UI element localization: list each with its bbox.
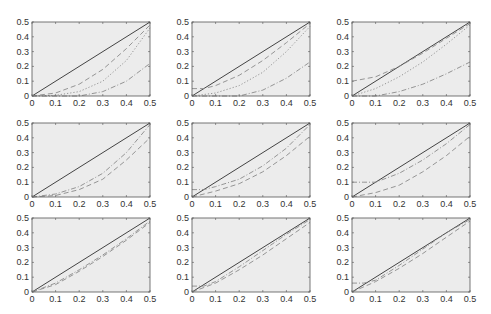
y-tick-label: 0.4 [176,32,189,42]
x-tick-label: 0.4 [280,294,293,304]
y-tick-label: 0 [344,287,349,297]
y-tick-label: 0.2 [16,257,29,267]
y-tick-label: 0.5 [176,118,189,128]
subplot-5: 00.10.20.30.40.500.10.20.30.40.5 [176,118,316,209]
y-tick-label: 0.4 [176,133,189,143]
y-tick-label: 0.1 [176,272,189,282]
x-tick-label: 0.2 [73,199,86,209]
x-tick-label: 0.1 [369,98,382,108]
y-tick-label: 0.4 [176,228,189,238]
x-tick-label: 0.3 [97,199,110,209]
x-tick-label: 0.1 [209,294,222,304]
x-tick-label: 0.3 [97,98,110,108]
subplot-9: 00.10.20.30.40.500.10.20.30.40.5 [336,213,476,304]
y-tick-label: 0 [184,91,189,101]
x-tick-label: 0.5 [144,98,157,108]
y-tick-label: 0.3 [336,47,349,57]
y-tick-label: 0.4 [336,133,349,143]
y-tick-label: 0.1 [176,76,189,86]
x-tick-label: 0.1 [209,98,222,108]
x-tick-label: 0.5 [464,199,477,209]
y-tick-label: 0.2 [16,61,29,71]
x-tick-label: 0.4 [120,294,133,304]
y-tick-label: 0 [344,192,349,202]
y-tick-label: 0.3 [336,243,349,253]
x-tick-label: 0.5 [304,294,317,304]
x-tick-label: 0 [189,199,194,209]
y-tick-label: 0.4 [336,32,349,42]
x-tick-label: 0.1 [369,199,382,209]
x-tick-label: 0.4 [280,199,293,209]
x-tick-label: 0.4 [280,98,293,108]
subplot-7: 00.10.20.30.40.500.10.20.30.40.5 [16,213,156,304]
x-tick-label: 0.4 [120,199,133,209]
y-tick-label: 0 [344,91,349,101]
y-tick-label: 0.1 [16,177,29,187]
y-tick-label: 0.4 [16,228,29,238]
y-tick-label: 0.1 [16,76,29,86]
x-tick-label: 0.4 [440,98,453,108]
x-tick-label: 0 [29,199,34,209]
x-tick-label: 0.3 [97,294,110,304]
y-tick-label: 0.5 [336,118,349,128]
y-tick-label: 0.1 [176,177,189,187]
y-tick-label: 0 [24,192,29,202]
subplot-6: 00.10.20.30.40.500.10.20.30.40.5 [336,118,476,209]
x-tick-label: 0 [349,199,354,209]
x-tick-label: 0.2 [73,294,86,304]
y-tick-label: 0.2 [336,162,349,172]
y-tick-label: 0.2 [176,257,189,267]
y-tick-label: 0.3 [336,148,349,158]
x-tick-label: 0.3 [417,199,430,209]
y-tick-label: 0.3 [16,243,29,253]
x-tick-label: 0.2 [233,98,246,108]
y-tick-label: 0.2 [336,61,349,71]
y-tick-label: 0.5 [16,118,29,128]
y-tick-label: 0.5 [16,17,29,27]
y-tick-label: 0 [24,91,29,101]
x-tick-label: 0 [349,294,354,304]
y-tick-label: 0.5 [16,213,29,223]
subplot-4: 00.10.20.30.40.500.10.20.30.40.5 [16,118,156,209]
y-tick-label: 0.2 [16,162,29,172]
y-tick-label: 0.2 [336,257,349,267]
x-tick-label: 0 [189,98,194,108]
y-tick-label: 0 [184,287,189,297]
x-tick-label: 0 [29,294,34,304]
y-tick-label: 0.4 [336,228,349,238]
y-tick-label: 0.3 [16,148,29,158]
subplot-grid: 00.10.20.30.40.500.10.20.30.40.500.10.20… [0,0,491,314]
x-tick-label: 0.3 [417,98,430,108]
x-tick-label: 0.1 [49,294,62,304]
x-tick-label: 0.2 [73,98,86,108]
y-tick-label: 0.3 [176,243,189,253]
x-tick-label: 0.5 [144,294,157,304]
x-tick-label: 0.4 [440,199,453,209]
y-tick-label: 0.5 [336,213,349,223]
x-tick-label: 0 [29,98,34,108]
y-tick-label: 0.5 [176,17,189,27]
y-tick-label: 0.1 [336,272,349,282]
y-tick-label: 0.1 [336,76,349,86]
y-tick-label: 0 [24,287,29,297]
y-tick-label: 0.1 [16,272,29,282]
subplot-2: 00.10.20.30.40.500.10.20.30.40.5 [176,17,316,108]
x-tick-label: 0.2 [393,199,406,209]
x-tick-label: 0.3 [257,294,270,304]
x-tick-label: 0.2 [233,294,246,304]
y-tick-label: 0.5 [176,213,189,223]
y-tick-label: 0 [184,192,189,202]
x-tick-label: 0.5 [304,98,317,108]
x-tick-label: 0.3 [417,294,430,304]
x-tick-label: 0.2 [393,98,406,108]
y-tick-label: 0.3 [176,148,189,158]
x-tick-label: 0.4 [440,294,453,304]
y-tick-label: 0.3 [176,47,189,57]
x-tick-label: 0.4 [120,98,133,108]
y-tick-label: 0.5 [336,17,349,27]
x-tick-label: 0.2 [233,199,246,209]
x-tick-label: 0.2 [393,294,406,304]
y-tick-label: 0.1 [336,177,349,187]
x-tick-label: 0.1 [369,294,382,304]
x-tick-label: 0.5 [464,98,477,108]
